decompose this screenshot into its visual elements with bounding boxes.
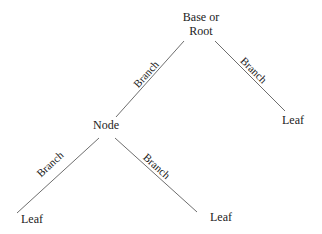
leaf-bottom-right-label: Leaf: [210, 210, 232, 224]
root-label-line1: Base or: [183, 10, 219, 24]
edge-root-leaf-right: [215, 41, 285, 111]
edge-node-leaf-right: [115, 138, 197, 212]
tree-edges: [0, 0, 322, 234]
root-label-line2: Root: [183, 24, 219, 38]
edge-root-node: [116, 41, 184, 117]
leaf-bottom-left-label: Leaf: [21, 212, 43, 226]
leaf-right-label: Leaf: [282, 113, 304, 127]
root-node-label: Base or Root: [183, 10, 219, 38]
node-label: Node: [93, 118, 119, 132]
